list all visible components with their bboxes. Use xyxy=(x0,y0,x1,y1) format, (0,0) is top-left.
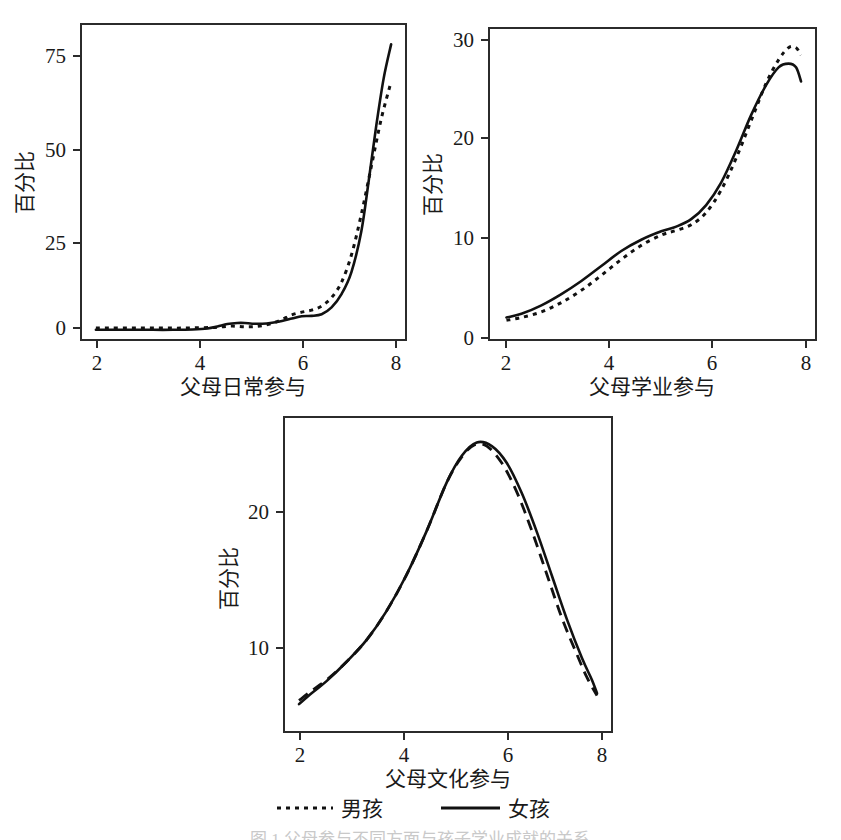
panel-daily-ylabel: 百分比 xyxy=(13,151,37,214)
panel-daily-xlabel: 父母日常参与 xyxy=(180,375,306,399)
panel-cultural-ytick-20: 20 xyxy=(248,500,269,524)
panel-cultural-xtick-8: 8 xyxy=(597,743,608,767)
panel-cultural-series-girls xyxy=(299,442,597,704)
legend-entry-girls[interactable]: 女孩 xyxy=(441,797,550,821)
legend: 男孩 女孩 xyxy=(277,797,550,821)
legend-entry-boys[interactable]: 男孩 xyxy=(277,797,383,821)
panel-academic-x-ticks xyxy=(506,340,806,348)
panel-academic-ytick-30: 30 xyxy=(453,28,474,52)
panel-academic-frame xyxy=(489,28,816,340)
panel-academic-ytick-20: 20 xyxy=(453,126,474,150)
panel-academic-xtick-2: 2 xyxy=(501,351,512,375)
panel-cultural-ylabel: 百分比 xyxy=(217,547,241,610)
panel-academic: 0 10 20 30 2 4 6 8 父母学业参与 百分比 xyxy=(421,28,816,399)
panel-daily-xtick-4: 4 xyxy=(195,351,206,375)
panel-daily-ytick-25: 25 xyxy=(45,231,66,255)
panel-cultural-y-ticks xyxy=(276,512,284,648)
panel-academic-ylabel: 百分比 xyxy=(421,153,445,216)
panel-daily: 0 25 50 75 2 4 6 8 父母日常参与 百分比 xyxy=(13,24,406,399)
panel-cultural-ytick-10: 10 xyxy=(248,636,269,660)
panel-cultural: 10 20 2 4 6 8 父母文化参与 百分比 xyxy=(217,417,612,791)
panel-cultural-xlabel: 父母文化参与 xyxy=(385,767,511,791)
panel-cultural-xtick-2: 2 xyxy=(295,743,306,767)
panel-daily-ytick-0: 0 xyxy=(56,316,67,340)
panel-academic-y-ticks xyxy=(481,40,489,338)
panel-daily-ytick-50: 50 xyxy=(45,138,66,162)
panel-daily-ytick-75: 75 xyxy=(45,44,66,68)
panel-academic-xtick-8: 8 xyxy=(801,351,812,375)
panel-academic-series-girls xyxy=(506,64,801,318)
panel-daily-y-ticks xyxy=(73,56,81,328)
panel-academic-xtick-4: 4 xyxy=(604,351,615,375)
panel-daily-xtick-2: 2 xyxy=(92,351,103,375)
panel-cultural-x-ticks xyxy=(300,732,602,740)
charts-svg: 0 25 50 75 2 4 6 8 父母日常参与 百分比 xyxy=(0,0,841,840)
figure-caption: 图 1 父母参与不同方面与孩子学业成就的关系 xyxy=(250,830,590,840)
panel-daily-series-boys xyxy=(96,82,391,328)
panel-academic-ytick-10: 10 xyxy=(453,226,474,250)
panel-daily-series-girls xyxy=(96,44,391,329)
panel-cultural-xtick-6: 6 xyxy=(503,743,514,767)
panel-academic-xtick-6: 6 xyxy=(707,351,718,375)
panel-academic-ytick-0: 0 xyxy=(464,326,475,350)
panel-academic-series-boys xyxy=(506,46,801,320)
legend-label-girls: 女孩 xyxy=(508,797,550,821)
panel-cultural-frame xyxy=(284,417,612,732)
legend-label-boys: 男孩 xyxy=(341,797,383,821)
panel-daily-frame xyxy=(81,24,406,340)
panel-daily-xtick-8: 8 xyxy=(391,351,402,375)
panel-daily-x-ticks xyxy=(97,340,396,348)
panel-daily-xtick-6: 6 xyxy=(298,351,309,375)
figure-container: 0 25 50 75 2 4 6 8 父母日常参与 百分比 xyxy=(0,0,841,840)
panel-academic-xlabel: 父母学业参与 xyxy=(589,375,715,399)
panel-cultural-xtick-4: 4 xyxy=(399,743,410,767)
